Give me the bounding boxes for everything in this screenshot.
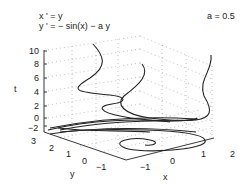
y-tick-label: 3 — [31, 137, 36, 146]
x-tick-label: −1 — [140, 163, 150, 172]
trajectory-curves — [48, 44, 211, 151]
x-tick-label: 0 — [170, 157, 175, 166]
z-tick-label: 8 — [34, 60, 39, 69]
z-tick-label: 4 — [34, 88, 39, 97]
z-axis-label: t — [14, 85, 17, 94]
equation-line-2: y ' = − sin(x) − a y — [39, 22, 110, 31]
y-axis-label: y — [70, 170, 75, 179]
z-tick-label: 6 — [34, 74, 39, 83]
z-tick-label: 0 — [34, 114, 39, 123]
y-tick-label: 1 — [66, 150, 71, 159]
z-tick-label: 10 — [29, 47, 39, 56]
axes — [44, 50, 214, 160]
y-tick-label: 2 — [49, 144, 54, 153]
x-tick-label: 1 — [201, 150, 206, 159]
grid — [48, 36, 212, 155]
z-tick-label: 2 — [34, 102, 39, 111]
equation-line-1: x ' = y — [39, 12, 62, 21]
z-tick-label: −2 — [28, 124, 38, 133]
x-axis-label: x — [163, 173, 168, 182]
x-tick-label: 2 — [230, 150, 235, 159]
y-tick-label: −1 — [96, 163, 106, 172]
parameter-annotation: a = 0.5 — [207, 12, 235, 21]
y-tick-label: 0 — [82, 157, 87, 166]
